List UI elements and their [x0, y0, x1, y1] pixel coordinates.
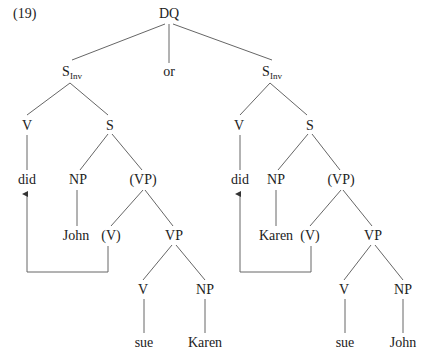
- node-right-sinv-subscript: Inv: [270, 71, 282, 81]
- node-right-karen: Karen: [259, 229, 293, 243]
- node-left-sinv-label: S: [62, 64, 70, 79]
- node-left-np: NP: [69, 173, 87, 187]
- node-left-s: S: [106, 119, 114, 133]
- node-right-john: John: [390, 336, 416, 350]
- node-right-s: S: [306, 119, 314, 133]
- node-left-vp-paren: (VP): [129, 173, 156, 187]
- example-number: (19): [13, 6, 36, 22]
- node-left-did: did: [18, 173, 36, 187]
- node-right-did: did: [231, 173, 249, 187]
- node-left-sinv: SInv: [62, 65, 82, 81]
- node-left-sue: sue: [135, 336, 154, 350]
- node-left-sinv-subscript: Inv: [70, 71, 82, 81]
- node-right-sinv: SInv: [262, 65, 282, 81]
- node-left-vp: VP: [165, 229, 183, 243]
- node-right-np2: NP: [394, 283, 412, 297]
- node-right-v: V: [234, 119, 244, 133]
- node-right-vp-paren: (VP): [327, 173, 354, 187]
- node-left-v: V: [22, 119, 32, 133]
- node-left-john: John: [63, 229, 89, 243]
- node-right-sinv-label: S: [262, 64, 270, 79]
- node-right-v2: V: [339, 283, 349, 297]
- node-right-v-paren: (V): [300, 229, 319, 243]
- node-left-v-paren: (V): [101, 229, 120, 243]
- tree-edges: [0, 0, 431, 356]
- node-left-karen: Karen: [188, 336, 222, 350]
- node-right-np: NP: [267, 173, 285, 187]
- node-right-vp: VP: [364, 229, 382, 243]
- node-or: or: [163, 65, 175, 79]
- node-left-np2: NP: [196, 283, 214, 297]
- node-right-sue: sue: [336, 336, 355, 350]
- node-left-v2: V: [138, 283, 148, 297]
- node-dq: DQ: [159, 7, 179, 21]
